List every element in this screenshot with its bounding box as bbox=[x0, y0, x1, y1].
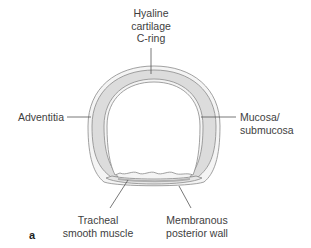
label-line: C-ring bbox=[126, 32, 176, 45]
label-hyaline-cartilage: Hyaline cartilage C-ring bbox=[126, 7, 176, 45]
leader-membranous bbox=[179, 186, 191, 208]
label-tracheal-smooth-muscle: Tracheal smooth muscle bbox=[60, 214, 136, 239]
label-line: Membranous bbox=[164, 214, 230, 227]
label-line: submucosa bbox=[240, 124, 304, 137]
label-membranous-posterior-wall: Membranous posterior wall bbox=[164, 214, 230, 239]
label-line: Hyaline bbox=[126, 7, 176, 20]
label-adventitia: Adventitia bbox=[10, 111, 64, 124]
mucosa-lining bbox=[107, 82, 200, 175]
label-mucosa-submucosa: Mucosa/ submucosa bbox=[240, 111, 304, 136]
label-line: Tracheal bbox=[60, 214, 136, 227]
panel-label: a bbox=[29, 229, 35, 241]
label-line: smooth muscle bbox=[60, 227, 136, 240]
label-line: posterior wall bbox=[164, 227, 230, 240]
label-line: cartilage bbox=[126, 20, 176, 33]
label-line: Mucosa/ bbox=[240, 111, 304, 124]
